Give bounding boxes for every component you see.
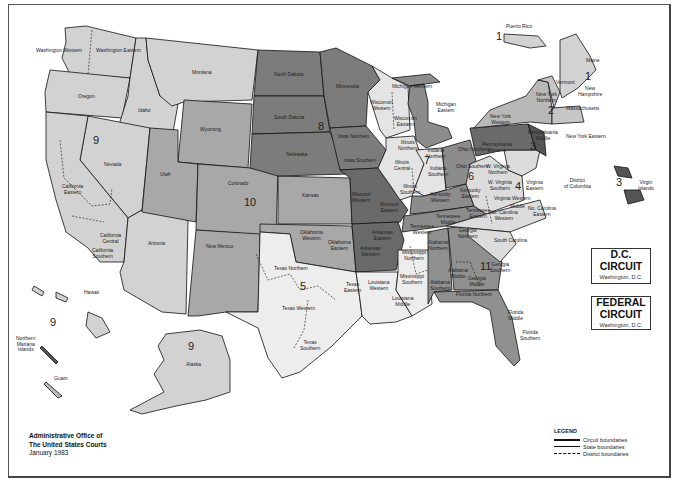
label-utah: Utah <box>160 172 171 178</box>
label-alabama-northern: Alabama Northern <box>428 240 448 251</box>
region-kansas <box>278 176 352 224</box>
label-florida-middle: Florida Middle <box>508 310 523 321</box>
label-florida-southern: Florida Southern <box>520 330 540 341</box>
region-wyoming <box>178 100 252 168</box>
label-oklahoma-western: Oklahoma Western <box>300 230 323 241</box>
label-new-york-western: New York Western <box>490 114 511 125</box>
federal-circuit-location: Washington, D.C. <box>592 322 650 328</box>
label-california-southern: California Southern <box>92 248 113 259</box>
label-new-mexico: New Mexico <box>206 244 233 250</box>
label-wisconsin-eastern: Wisconsin Eastern <box>394 116 417 127</box>
label-nc-western: No. Carolina Western <box>490 210 518 221</box>
label-wisconsin-western: Wisconsin Western <box>370 100 393 111</box>
label-guam: Guam <box>54 376 68 382</box>
circuit-number: 8 <box>318 120 324 132</box>
label-new-york-eastern: New York Eastern <box>566 134 606 140</box>
federal-circuit-title-1: FEDERAL <box>592 297 650 309</box>
region-mariana <box>40 346 58 364</box>
label-idaho: Idaho <box>138 108 151 114</box>
label-tennessee-western: Tennessee Western <box>410 224 434 235</box>
label-california-central: California Central <box>100 233 121 244</box>
label-georgia-middle: Georgia Middle <box>468 276 486 287</box>
label-alabama-southern: Alabama Southern <box>430 280 450 291</box>
dashed-line-icon <box>554 453 580 454</box>
circuit-number: 5 <box>300 280 306 292</box>
label-minnesota: Minnesota <box>336 84 359 90</box>
credit-date: January 1983 <box>29 449 107 458</box>
label-georgia-northern: Georgia Northern <box>458 228 477 239</box>
label-michigan-western: Michigan Western <box>392 84 432 90</box>
label-indiana-southern: Indiana Southern <box>428 166 448 177</box>
label-missouri-western: Missouri Western <box>352 192 371 203</box>
label-virgin-islands: Virgin Islands <box>638 180 654 191</box>
legend-title: LEGEND <box>554 428 629 434</box>
label-nevada: Nevada <box>104 162 121 168</box>
label-texas-eastern: Texas Eastern <box>344 282 361 293</box>
circuit-number: 1 <box>585 70 591 82</box>
label-kentucky-western: Kentucky Western <box>430 192 451 203</box>
label-montana: Montana <box>192 70 211 76</box>
label-oklahoma-eastern: Oklahoma Eastern <box>328 240 351 251</box>
label-puerto-rico: Puerto Rico <box>506 24 532 30</box>
label-illinois-northern: Illinois Northern <box>398 140 417 151</box>
circuit-number: 10 <box>244 196 256 208</box>
label-california-eastern: California Eastern <box>62 184 83 195</box>
label-south-dakota: South Dakota <box>274 115 304 121</box>
label-north-dakota: North Dakota <box>274 72 303 78</box>
label-nebraska: Nebraska <box>286 152 307 158</box>
label-ohio-southern: Ohio Southern <box>456 164 488 170</box>
region-florida <box>434 290 520 366</box>
label-texas-northern: Texas Northern <box>274 266 308 272</box>
label-texas-western: Texas Western <box>282 306 315 312</box>
map-credit: Administrative Office of The United Stat… <box>29 432 107 458</box>
label-nc-eastern: No. Carolina Eastern <box>528 206 556 217</box>
circuit-number: 9 <box>188 340 194 352</box>
label-louisiana-middle: Louisiana Middle <box>392 296 413 307</box>
label-maine: Maine <box>586 58 600 64</box>
label-arkansas-eastern: Arkansas Eastern <box>372 230 393 241</box>
region-new-york <box>474 80 552 128</box>
circuit-number: 1 <box>496 30 502 42</box>
label-pennsylvania-middle: Pennsylvania Middle <box>528 130 558 141</box>
dc-circuit-title-1: D.C. <box>592 249 650 261</box>
label-illinois-southern: Illinois Southern <box>400 184 420 195</box>
label-alaska: Alaska <box>186 362 201 368</box>
label-florida-northern: Florida Northern <box>456 292 492 298</box>
label-washington-western: Washington Western <box>36 48 82 54</box>
label-virginia-western: Virginia Western <box>494 196 531 202</box>
circuit-number: 6 <box>468 170 474 182</box>
label-washington-eastern: Washington Eastern <box>96 48 141 54</box>
federal-circuit-title-2: CIRCUIT <box>592 309 650 321</box>
label-kentucky-eastern: Kentucky Eastern <box>460 188 481 199</box>
label-illinois-central: Illinois Central <box>394 160 410 171</box>
label-wv-northern: W. Virginia Northern <box>486 164 510 175</box>
region-alaska <box>130 330 230 414</box>
label-vermont: Vermont <box>556 80 575 86</box>
legend-item-circuit: Circuit boundaries <box>554 436 629 443</box>
label-michigan-eastern: Michigan Eastern <box>436 102 456 113</box>
label-alabama-middle: Alabama Middle <box>448 268 468 279</box>
dc-circuit-location: Washington, D.C. <box>592 274 650 280</box>
label-wyoming: Wyoming <box>200 127 221 133</box>
label-district-of-columbia: District of Columbia <box>564 178 591 189</box>
region-arizona <box>120 210 188 314</box>
label-arkansas-western: Arkansas Western <box>360 246 381 257</box>
label-indiana-northern: Indiana Northern <box>426 148 445 159</box>
label-tennessee-middle: Tennessee Middle <box>436 214 460 225</box>
legend: LEGEND Circuit boundaries State boundari… <box>554 428 629 457</box>
legend-item-district: District boundaries <box>554 450 629 457</box>
region-puerto-rico <box>504 34 546 48</box>
dc-circuit-box: D.C. CIRCUIT Washington, D.C. <box>591 248 651 284</box>
credit-line-2: The United States Courts <box>29 441 107 448</box>
label-mississippi-southern: Mississippi Southern <box>400 274 424 285</box>
legend-item-state: State boundaries <box>554 443 629 450</box>
label-wv-southern: W. Virginia Southern <box>488 180 512 191</box>
circuit-number: 3 <box>616 176 622 188</box>
label-iowa-southern: Iowa Southern <box>344 158 376 164</box>
circuit-number: 2 <box>548 104 554 116</box>
dc-circuit-title-2: CIRCUIT <box>592 261 650 273</box>
label-south-carolina: South Carolina <box>494 238 527 244</box>
credit-line-1: Administrative Office of <box>29 432 102 439</box>
label-virginia-eastern: Virginia Eastern <box>526 180 543 191</box>
label-kansas: Kansas <box>302 193 319 199</box>
